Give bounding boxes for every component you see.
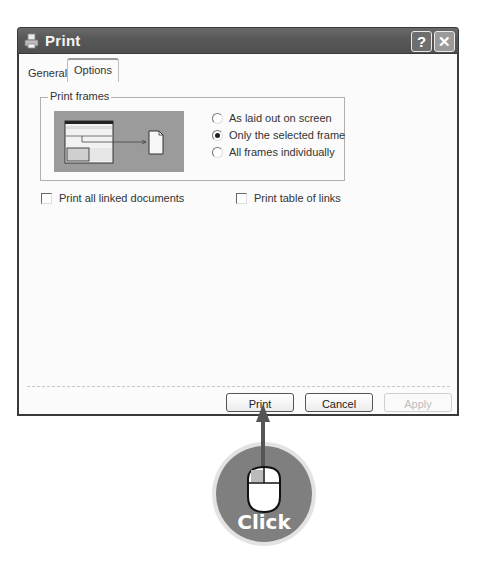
print-frames-label: Print frames — [48, 90, 111, 102]
separator — [27, 386, 450, 387]
printer-icon — [24, 33, 40, 49]
title-bar[interactable]: Print ? ✕ — [17, 27, 459, 54]
arrow-up-icon — [256, 404, 270, 422]
click-label: Click — [216, 510, 312, 534]
radio-label: As laid out on screen — [229, 112, 332, 124]
checkbox-print-linked-docs[interactable]: Print all linked documents — [41, 192, 184, 204]
checkbox-label: Print all linked documents — [59, 192, 184, 204]
checkbox-print-table-of-links[interactable]: Print table of links — [236, 192, 341, 204]
radio-all-frames[interactable]: All frames individually — [212, 146, 335, 158]
radio-only-selected-frame[interactable]: Only the selected frame — [212, 129, 345, 141]
close-button[interactable]: ✕ — [434, 31, 455, 52]
radio-button[interactable] — [212, 147, 223, 158]
checkbox[interactable] — [41, 193, 52, 204]
apply-button[interactable]: Apply — [384, 393, 452, 412]
tab-general[interactable]: General — [24, 64, 71, 82]
stage: Print ? ✕ General Options Print frames A… — [0, 0, 485, 570]
radio-label: Only the selected frame — [229, 129, 345, 141]
checkbox[interactable] — [236, 193, 247, 204]
window-title: Print — [45, 32, 81, 49]
frames-preview-illustration — [54, 111, 184, 172]
radio-as-laid-out[interactable]: As laid out on screen — [212, 112, 332, 124]
cancel-button[interactable]: Cancel — [305, 393, 373, 412]
checkbox-label: Print table of links — [254, 192, 341, 204]
radio-label: All frames individually — [229, 146, 335, 158]
help-button[interactable]: ? — [411, 31, 432, 52]
radio-button[interactable] — [212, 113, 223, 124]
tab-options[interactable]: Options — [67, 58, 119, 82]
mouse-icon — [242, 465, 286, 515]
radio-button-selected[interactable] — [212, 130, 223, 141]
